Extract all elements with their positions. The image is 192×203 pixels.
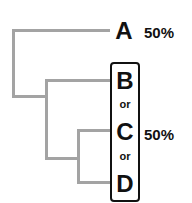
branch-a xyxy=(12,29,110,32)
group-percent: 50% xyxy=(144,126,174,143)
branch-d xyxy=(77,181,110,184)
bcd-to-cd xyxy=(45,157,79,160)
leaf-c-label: C xyxy=(110,120,140,144)
or-label-1: or xyxy=(110,98,140,110)
branch-c xyxy=(77,129,110,132)
leaf-a-percent: 50% xyxy=(144,24,174,41)
bcd-vertical xyxy=(45,79,48,159)
leaf-b-label: B xyxy=(110,69,140,93)
leaf-a-label: A xyxy=(109,19,139,43)
leaf-d-label: D xyxy=(110,172,140,196)
cd-vertical xyxy=(77,129,80,183)
branch-b xyxy=(45,79,110,82)
root-vertical xyxy=(12,29,15,97)
root-to-bcd xyxy=(12,95,47,98)
or-label-2: or xyxy=(110,150,140,162)
